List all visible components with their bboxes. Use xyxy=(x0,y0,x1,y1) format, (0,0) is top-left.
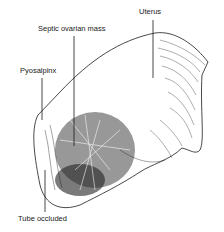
label-uterus: Uterus xyxy=(139,8,161,16)
label-septic-ovarian-mass: Septic ovarian mass xyxy=(38,25,106,33)
uterus-hatching xyxy=(150,40,205,158)
label-tube-occluded: Tube occluded xyxy=(18,215,67,223)
anatomical-illustration xyxy=(0,0,224,232)
label-pyosalpinx: Pyosalpinx xyxy=(20,67,56,75)
ovarian-mass-texture xyxy=(45,112,165,196)
